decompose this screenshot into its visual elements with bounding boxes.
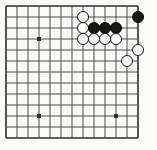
star-point-upper-left bbox=[37, 37, 41, 41]
star-point-lower-left bbox=[37, 114, 41, 118]
star-point-lower-right bbox=[114, 114, 118, 118]
go-board-figure: Go board corner diagram bbox=[0, 0, 157, 150]
go-board-surface[interactable] bbox=[0, 0, 157, 150]
